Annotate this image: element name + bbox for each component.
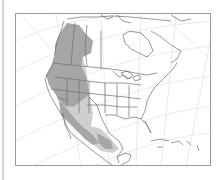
left-border-bar [2, 0, 4, 180]
north-america-map [16, 14, 211, 166]
range-map [15, 13, 211, 166]
primary-range [46, 23, 113, 149]
